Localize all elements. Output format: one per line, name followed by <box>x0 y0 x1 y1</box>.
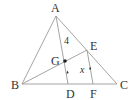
label-c: C <box>120 78 128 92</box>
label-e: E <box>90 39 97 53</box>
label-b: B <box>11 78 19 92</box>
parallel-mark-ef-icon <box>89 67 91 70</box>
measure-ef: x <box>79 64 85 75</box>
segment-ab <box>22 16 56 84</box>
parallel-mark-ad-icon <box>66 71 68 74</box>
segment-ad <box>56 16 68 84</box>
label-g: G <box>51 54 60 68</box>
point-g-dot <box>63 59 67 63</box>
label-f: F <box>90 87 97 100</box>
geometry-diagram: A B C D E F G 4 x <box>0 0 138 100</box>
label-a: A <box>51 1 60 15</box>
label-d: D <box>66 87 75 100</box>
measure-ag: 4 <box>64 35 69 46</box>
